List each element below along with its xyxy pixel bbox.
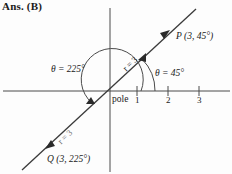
point-q-label: Q (3, 225°) bbox=[47, 155, 90, 165]
tick-label-1: 1 bbox=[135, 96, 140, 105]
angle-arc-45 bbox=[142, 59, 155, 91]
theta-45-label: θ = 45° bbox=[155, 69, 184, 79]
polar-diagram bbox=[0, 0, 232, 174]
point-p-label: P (3, 45°) bbox=[176, 32, 213, 42]
theta-225-label: θ = 225° bbox=[51, 65, 85, 75]
tick-label-3: 3 bbox=[197, 96, 202, 105]
figure-panel: Ans. (B) P (3, 45°) Q (3, 225°) θ = 225°… bbox=[0, 0, 232, 174]
angle-arc-45-arrowhead bbox=[138, 53, 146, 62]
pole-label: pole bbox=[112, 95, 128, 105]
tick-label-2: 2 bbox=[166, 96, 171, 105]
